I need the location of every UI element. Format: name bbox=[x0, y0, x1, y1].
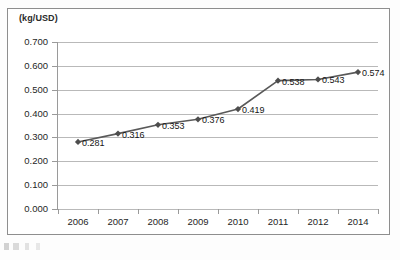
x-axis-tick bbox=[298, 209, 299, 214]
chart-figure: (kg/USD) 0.7000.6000.5000.4000.3000.2000… bbox=[0, 0, 400, 260]
x-axis-tick bbox=[338, 209, 339, 214]
y-axis-tick-label: 0.100 bbox=[2, 179, 48, 190]
x-axis-tick bbox=[178, 209, 179, 214]
y-axis-tick bbox=[52, 161, 57, 162]
gridline bbox=[58, 66, 378, 67]
data-point-label: 0.316 bbox=[122, 130, 145, 140]
y-axis-tick bbox=[52, 209, 57, 210]
y-axis-tick-label: 0.700 bbox=[2, 36, 48, 47]
x-axis-tick bbox=[218, 209, 219, 214]
gridline bbox=[58, 90, 378, 91]
gridline bbox=[58, 185, 378, 186]
x-axis-tick bbox=[58, 209, 59, 214]
y-axis-tick bbox=[52, 114, 57, 115]
data-point-label: 0.376 bbox=[202, 115, 225, 125]
x-axis-tick bbox=[98, 209, 99, 214]
y-axis-tick bbox=[52, 66, 57, 67]
data-point-label: 0.543 bbox=[322, 75, 345, 85]
y-axis-tick-label: 0.000 bbox=[2, 203, 48, 214]
data-point-label: 0.353 bbox=[162, 121, 185, 131]
data-point-label: 0.574 bbox=[362, 68, 385, 78]
data-point-label: 0.538 bbox=[282, 77, 305, 87]
y-axis-tick-label: 0.600 bbox=[2, 60, 48, 71]
y-axis-tick bbox=[52, 90, 57, 91]
y-axis-tick-label: 0.400 bbox=[2, 108, 48, 119]
gridline bbox=[58, 137, 378, 138]
y-axis-tick-label: 0.300 bbox=[2, 131, 48, 142]
x-axis-tick bbox=[258, 209, 259, 214]
gridline bbox=[58, 42, 378, 43]
x-axis-tick bbox=[138, 209, 139, 214]
y-axis-tick bbox=[52, 137, 57, 138]
y-axis-tick bbox=[52, 42, 57, 43]
x-axis-tick-label: 2014 bbox=[335, 216, 381, 227]
y-axis-tick bbox=[52, 185, 57, 186]
y-axis-title: (kg/USD) bbox=[19, 13, 58, 23]
x-axis-tick bbox=[378, 209, 379, 214]
gridline bbox=[58, 161, 378, 162]
y-axis-tick-label: 0.200 bbox=[2, 155, 48, 166]
y-axis-tick-label: 0.500 bbox=[2, 84, 48, 95]
data-point-label: 0.419 bbox=[242, 105, 265, 115]
data-point-label: 0.281 bbox=[82, 138, 105, 148]
scan-artifact bbox=[4, 243, 46, 250]
